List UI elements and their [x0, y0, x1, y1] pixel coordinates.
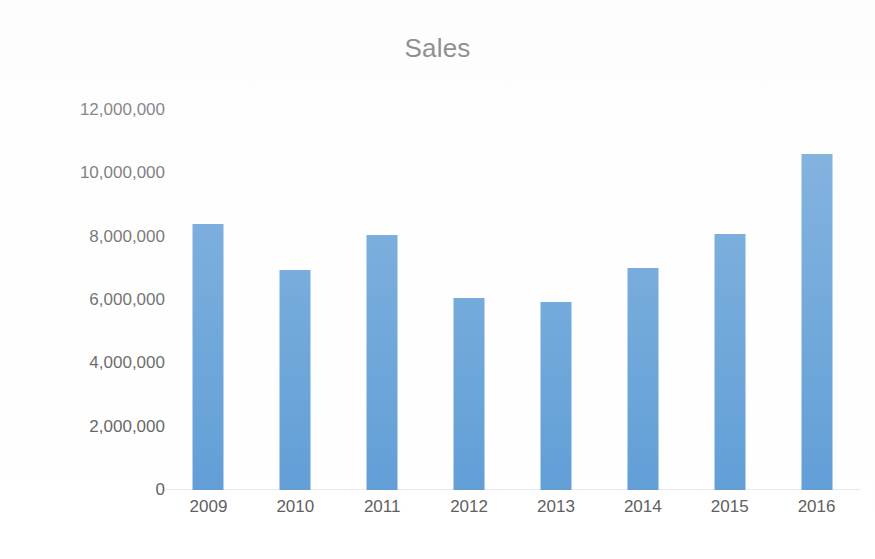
- bar-slot: [686, 110, 773, 490]
- bar-slot: [599, 110, 686, 490]
- bar[interactable]: [454, 298, 485, 490]
- x-axis-tick-label: 2010: [252, 497, 339, 517]
- x-axis-tick-label: 2015: [686, 497, 773, 517]
- bar-slot: [426, 110, 513, 490]
- bar[interactable]: [193, 224, 224, 490]
- bar-slot: [252, 110, 339, 490]
- y-axis-tick-label: 12,000,000: [20, 100, 165, 120]
- bar[interactable]: [801, 154, 832, 490]
- bar[interactable]: [540, 302, 571, 490]
- plot-area: [165, 110, 860, 490]
- bar-slot: [773, 110, 860, 490]
- bar-slot: [513, 110, 600, 490]
- bar[interactable]: [627, 268, 658, 490]
- x-axis-tick-label: 2009: [165, 497, 252, 517]
- bar-slot: [339, 110, 426, 490]
- y-axis-tick-label: 8,000,000: [20, 227, 165, 247]
- bar[interactable]: [367, 235, 398, 490]
- y-axis-tick-label: 10,000,000: [20, 163, 165, 183]
- x-axis-tick-label: 2011: [339, 497, 426, 517]
- y-axis-tick-label: 6,000,000: [20, 290, 165, 310]
- x-axis-tick-label: 2013: [513, 497, 600, 517]
- x-axis: 20092010201120122013201420152016: [165, 497, 860, 527]
- y-axis: 02,000,0004,000,0006,000,0008,000,00010,…: [20, 100, 165, 500]
- x-axis-tick-label: 2012: [426, 497, 513, 517]
- sales-bar-chart: Sales 02,000,0004,000,0006,000,0008,000,…: [0, 0, 875, 559]
- bar-slot: [165, 110, 252, 490]
- bar[interactable]: [714, 234, 745, 491]
- chart-title: Sales: [0, 33, 875, 64]
- x-axis-tick-label: 2016: [773, 497, 860, 517]
- bar[interactable]: [280, 270, 311, 490]
- x-axis-tick-label: 2014: [599, 497, 686, 517]
- y-axis-tick-label: 2,000,000: [20, 417, 165, 437]
- y-axis-tick-label: 4,000,000: [20, 353, 165, 373]
- y-axis-tick-label: 0: [20, 480, 165, 500]
